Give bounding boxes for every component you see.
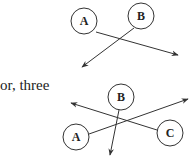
node-b-label: B <box>137 9 145 23</box>
arrow-from-a <box>96 32 178 55</box>
three-node-diagram: ABC <box>63 84 188 155</box>
node-b-label: B <box>117 90 125 104</box>
node-a-label: A <box>80 14 89 28</box>
two-node-diagram: AB <box>71 3 178 67</box>
caption-text: or, three <box>0 78 49 93</box>
node-c-label: C <box>166 126 175 140</box>
arrow-from-b <box>82 28 134 67</box>
node-a-label: A <box>72 130 81 144</box>
